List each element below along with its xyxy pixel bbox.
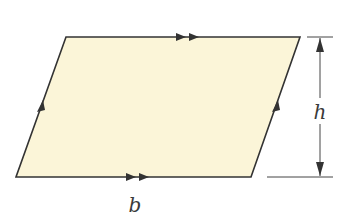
parallelogram-diagram: h b — [0, 0, 354, 220]
arrow-up-icon — [316, 38, 324, 52]
height-label: h — [314, 100, 327, 124]
base-label: b — [129, 193, 142, 217]
arrow-down-icon — [316, 162, 324, 176]
parallelogram-shape — [16, 37, 300, 177]
